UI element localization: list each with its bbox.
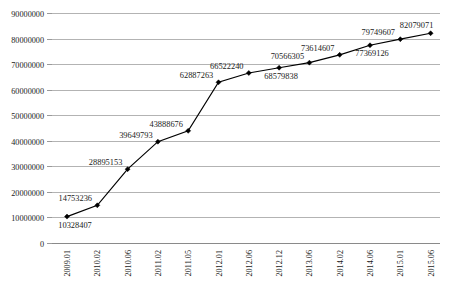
y-axis-tick-label: 70000000 — [11, 61, 44, 70]
data-point-label: 82079071 — [400, 21, 434, 30]
y-axis-tick-label: 40000000 — [11, 138, 44, 147]
data-point-label: 39649793 — [119, 131, 153, 140]
x-axis-tick-label: 2009.01 — [63, 250, 72, 277]
x-axis-tick-label: 2010.02 — [93, 250, 102, 277]
data-point-label: 73614607 — [301, 44, 335, 53]
y-axis-tick-label: 0 — [40, 240, 44, 249]
data-point-marker — [65, 214, 70, 219]
data-point-label: 77369126 — [355, 49, 389, 58]
x-axis-tick-label: 2010.06 — [124, 250, 133, 277]
data-point-marker — [368, 43, 373, 48]
y-axis-tick-label: 50000000 — [11, 112, 44, 121]
x-axis-tick-label: 2012.01 — [215, 250, 224, 277]
chart-plot-area: 0100000002000000030000000400000005000000… — [0, 0, 454, 303]
x-axis-tick-label: 2011.05 — [184, 250, 193, 276]
x-axis-tick-label: 2014.06 — [366, 250, 375, 277]
y-axis-tick-labels: 0100000002000000030000000400000005000000… — [11, 10, 44, 249]
x-axis-tick-label: 2014.02 — [336, 250, 345, 277]
y-axis-ticks — [47, 14, 52, 244]
data-point-marker — [337, 52, 342, 57]
line-chart: 0100000002000000030000000400000005000000… — [0, 0, 454, 303]
x-axis-tick-label: 2013.06 — [305, 250, 314, 277]
x-axis-tick-label: 2011.02 — [154, 250, 163, 276]
y-axis-tick-label: 20000000 — [11, 189, 44, 198]
data-series-line — [67, 33, 431, 216]
x-axis-tick-label: 2012.12 — [275, 250, 284, 277]
data-point-label: 14753236 — [59, 194, 93, 203]
x-axis-tick-labels: 2009.012010.022010.062011.022011.052012.… — [63, 250, 436, 277]
data-point-label: 68579838 — [264, 72, 298, 81]
data-point-markers — [65, 31, 434, 219]
y-axis-tick-label: 30000000 — [11, 163, 44, 172]
data-point-label: 70566305 — [271, 52, 305, 61]
data-point-marker — [246, 70, 251, 75]
data-point-label: 62887263 — [180, 71, 214, 80]
data-point-label: 43888676 — [149, 120, 183, 129]
y-axis-tick-label: 10000000 — [11, 214, 44, 223]
x-axis-tick-label: 2015.01 — [396, 250, 405, 277]
series-polyline — [67, 33, 431, 216]
data-point-label: 10328407 — [58, 221, 92, 230]
x-axis-tick-label: 2015.06 — [427, 250, 436, 277]
data-point-marker — [398, 37, 403, 42]
y-axis-tick-label: 90000000 — [11, 10, 44, 19]
y-axis-tick-label: 60000000 — [11, 87, 44, 96]
data-point-labels: 1032840714753236288951533964979343888676… — [58, 21, 433, 229]
data-point-label: 79749607 — [362, 28, 396, 37]
data-point-label: 28895153 — [89, 158, 123, 167]
x-axis-tick-label: 2012.06 — [245, 250, 254, 277]
data-point-label: 66522240 — [210, 62, 244, 71]
data-point-marker — [277, 65, 282, 70]
gridlines — [52, 14, 440, 244]
data-point-marker — [428, 31, 433, 36]
y-axis-tick-label: 80000000 — [11, 36, 44, 45]
